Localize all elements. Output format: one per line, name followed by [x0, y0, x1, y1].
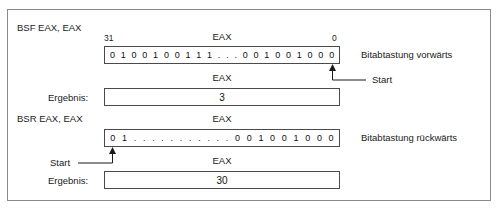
operation-label-bsf: BSF EAX, EAX	[17, 22, 81, 34]
bit-cell: 0	[161, 49, 172, 61]
bit-cell: .	[140, 132, 149, 144]
bit-cell: .	[158, 132, 167, 144]
scan-direction-label-backward: Bitabtastung rückwärts	[361, 132, 457, 144]
register-label-eax-bsr: EAX	[104, 113, 340, 125]
bit-cell: .	[176, 132, 185, 144]
bit-cell: .	[213, 132, 222, 144]
bit-cell: 1	[119, 132, 131, 144]
bit-cell: 1	[204, 49, 215, 61]
bit-cell: .	[130, 132, 139, 144]
operation-label-bsr: BSR EAX, EAX	[17, 113, 82, 125]
bit-cell: .	[232, 49, 240, 61]
bit-cell: 0	[232, 132, 244, 144]
bit-cell: 0	[326, 49, 337, 61]
bit-cell: 0	[302, 132, 314, 144]
result-value-bsf: 3	[104, 91, 340, 104]
bit-cell: .	[223, 49, 231, 61]
bit-cell: .	[195, 132, 204, 144]
start-label-forward: Start	[372, 74, 392, 86]
bit-cell: 0	[107, 132, 119, 144]
bit-cell: 1	[193, 49, 204, 61]
bit-cell: 0	[315, 49, 326, 61]
bit-cell: 0	[251, 49, 262, 61]
bit-cell: 1	[183, 49, 194, 61]
result-register-label-eax-1: EAX	[104, 72, 340, 84]
bit-cell: 0	[267, 132, 279, 144]
bit-cell: .	[186, 132, 195, 144]
bit-row-bsr: 0 1 . . . . . . . . . . . 0 0 1 0 0 1 0 …	[107, 129, 337, 147]
bit-cell: 0	[325, 132, 337, 144]
bit-cell: .	[167, 132, 176, 144]
bit-cell: 1	[261, 49, 272, 61]
result-label-2: Ergebnis:	[48, 175, 88, 187]
scan-direction-label-forward: Bitabtastung vorwärts	[361, 49, 452, 61]
bit-cell: 0	[278, 132, 290, 144]
bit-cell: 0	[243, 132, 255, 144]
bit-cell: 0	[314, 132, 326, 144]
bit-cell: .	[222, 132, 231, 144]
bit-cell: 0	[305, 49, 316, 61]
bit-cell: 1	[150, 49, 161, 61]
bit-cell: 0	[129, 49, 140, 61]
bit-scan-figure: BSF EAX, EAX 31 EAX 0 0 1 0 0 1 0 0 1 1 …	[0, 0, 499, 213]
result-label-1: Ergebnis:	[48, 92, 88, 104]
register-label-eax-top: EAX	[104, 31, 340, 43]
bit-cell: .	[215, 49, 223, 61]
bit-cell: 1	[118, 49, 129, 61]
bit-cell: .	[149, 132, 158, 144]
start-label-backward: Start	[50, 157, 70, 169]
bit-cell: 0	[107, 49, 118, 61]
bit-cell: 0	[283, 49, 294, 61]
bit-cell: 1	[290, 132, 302, 144]
bit-cell: 0	[272, 49, 283, 61]
bit-cell: .	[204, 132, 213, 144]
bit-cell: 1	[255, 132, 267, 144]
bit-row-bsf: 0 1 0 0 1 0 0 1 1 1 . . . 0 0 1 0 0 1 0 …	[107, 46, 337, 64]
result-register-label-eax-2: EAX	[104, 155, 340, 167]
bit-cell: 0	[240, 49, 251, 61]
bit-index-low-label: 0	[332, 33, 337, 44]
bit-cell: 1	[294, 49, 305, 61]
result-value-bsr: 30	[104, 174, 340, 187]
bit-cell: 0	[139, 49, 150, 61]
bit-cell: 0	[172, 49, 183, 61]
